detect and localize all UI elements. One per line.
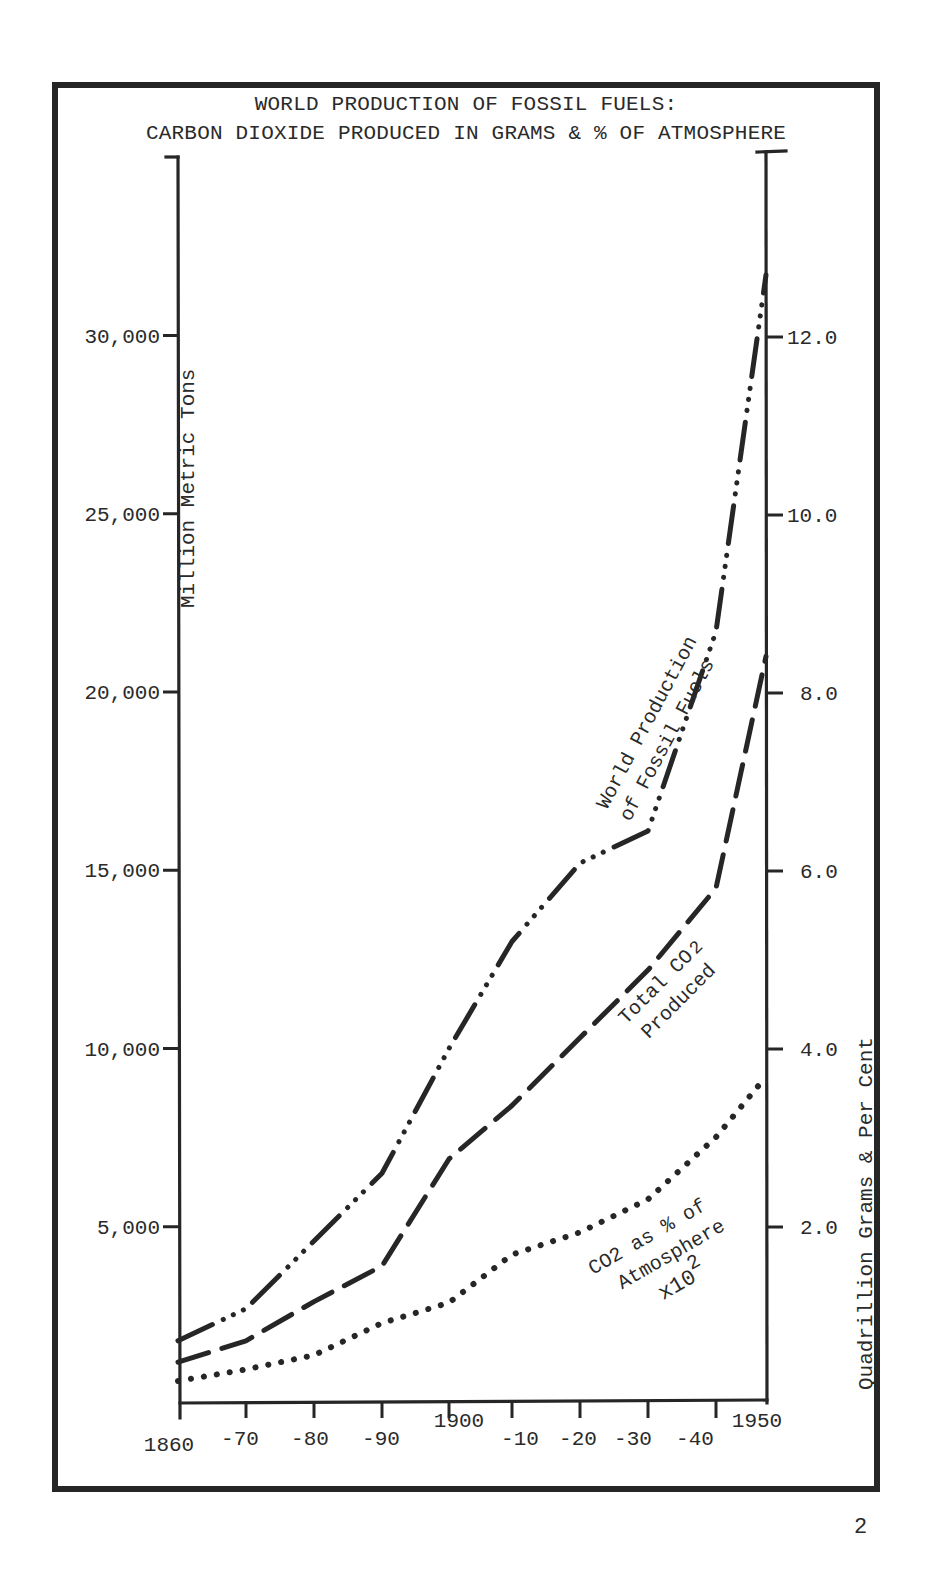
left-axis [178,157,180,1418]
x-tick-label: -30 [614,1428,652,1451]
right-tick-label: 2.0 [800,1217,838,1240]
x-tick-label: -40 [676,1428,714,1451]
right-axis-label: Quadrillion Grams & Per Cent [855,1037,878,1390]
right-axis [766,152,767,1403]
x-tick-label: 1900 [434,1410,484,1433]
x-tick-label: -70 [221,1428,259,1451]
chart-plot: 5,00010,00015,00020,00025,00030,0002.04.… [0,0,946,1591]
x-tick-label: 1950 [732,1410,782,1433]
right-tick-label: 6.0 [800,861,838,884]
x-tick-label: -80 [291,1428,329,1451]
right-tick-label: 12.0 [787,327,837,350]
x-tick-label: -90 [362,1428,400,1451]
x-axis [180,1400,767,1403]
left-tick-label: 15,000 [84,860,160,883]
left-tick-label: 5,000 [97,1217,160,1240]
right-tick-label: 4.0 [800,1039,838,1062]
left-tick-label: 20,000 [84,682,160,705]
left-tick-label: 30,000 [84,326,160,349]
x-tick-label: 1860 [144,1434,194,1457]
left-axis-label: Million Metric Tons [177,369,200,608]
x-tick-label: -20 [559,1428,597,1451]
page-number: 2 [854,1515,867,1540]
left-tick-label: 10,000 [84,1039,160,1062]
right-tick-label: 8.0 [800,683,838,706]
x-tick-label: -10 [501,1428,539,1451]
series-fossil-fuels [178,275,766,1341]
right-tick-label: 10.0 [787,505,837,528]
right-axis-cap [757,151,786,152]
left-tick-label: 25,000 [84,504,160,527]
